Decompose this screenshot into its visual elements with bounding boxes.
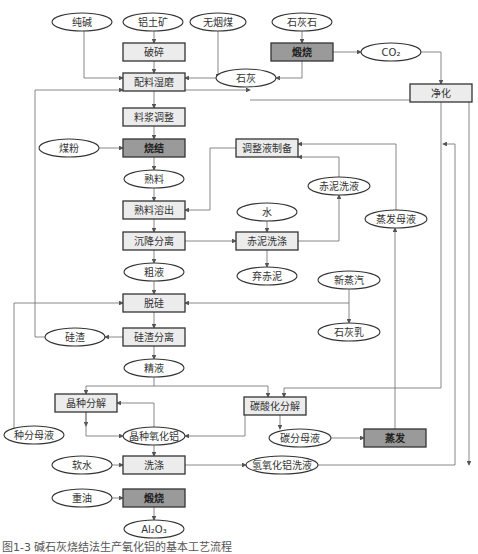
node-label: 煅烧: [292, 46, 312, 58]
process-step-chinixidi: 赤泥洗涤: [236, 232, 298, 250]
material-tanfenmuye: 碳分母液: [269, 429, 331, 447]
process-step-duanshao2: 煅烧: [123, 489, 185, 507]
material-qichini: 弃赤泥: [237, 267, 297, 285]
material-zhongyou: 重油: [52, 489, 112, 507]
node-label: 重油: [72, 492, 92, 504]
node-label: 硅渣: [65, 331, 85, 343]
node-label: 熟料: [144, 173, 164, 185]
process-step-jingzhongfenjie: 晶种分解: [55, 394, 117, 412]
node-label: 调整液制备: [242, 142, 292, 154]
node-label: 碳酸化分解: [250, 400, 300, 412]
flow-arrow: [86, 412, 123, 436]
node-label: 石灰: [236, 72, 256, 84]
node-label: 碳分母液: [280, 432, 320, 444]
material-zhongfenmuye: 种分母液: [4, 426, 64, 444]
process-step-xidi: 洗涤: [123, 456, 185, 474]
flow-arrow: [421, 52, 441, 84]
material-xinzhengqi: 新蒸汽: [318, 271, 380, 289]
process-step-tuogui: 脱硅: [123, 294, 185, 312]
node-label: 破碎: [144, 46, 164, 58]
node-label: 种分母液: [14, 429, 54, 441]
process-step-zhengfa: 蒸发: [364, 429, 426, 447]
process-step-tansuanhua: 碳酸化分解: [244, 397, 306, 415]
node-label: 脱硅: [144, 297, 164, 309]
flow-arrow: [298, 195, 339, 241]
flow-arrow: [284, 102, 441, 397]
node-label: 氢氧化铝洗液: [252, 459, 312, 471]
process-step-liaojiang: 料浆调整: [123, 108, 185, 126]
node-label: 纯碱: [72, 16, 92, 28]
node-label: 水: [262, 207, 272, 218]
node-label: 料浆调整: [134, 111, 174, 123]
node-label: 净化: [431, 87, 451, 99]
material-shihuishi: 石灰石: [272, 13, 332, 31]
node-label: 蒸发: [385, 432, 406, 444]
process-step-shaojie: 烧结: [123, 139, 185, 157]
flow-arrow: [185, 148, 236, 210]
flow-arrow: [86, 377, 154, 394]
node-label: 粗液: [144, 266, 164, 278]
figure-caption: 图1-3 碱石灰烧结法生产氧化铝的基本工艺流程: [2, 538, 232, 554]
node-label: 无烟煤: [203, 16, 233, 28]
node-label: 洗涤: [144, 459, 164, 471]
node-label: 赤泥洗涤: [247, 235, 287, 247]
material-shihui: 石灰: [216, 69, 276, 87]
node-label: 烧结: [144, 142, 164, 154]
node-label: 弃赤泥: [252, 270, 282, 282]
material-shuliao: 熟料: [124, 170, 184, 188]
material-cuye: 粗液: [124, 263, 184, 281]
node-label: 软水: [72, 459, 92, 471]
process-step-guizhafenli: 硅渣分离: [123, 328, 185, 346]
flow-arrow: [14, 303, 123, 435]
process-step-chenjiang: 沉降分离: [123, 232, 185, 250]
material-meifen: 煤粉: [39, 139, 99, 157]
material-lvtukuang: 铝土矿: [123, 13, 183, 31]
node-label: 精液: [144, 362, 164, 374]
node-label: 铝土矿: [138, 16, 168, 28]
node-label: 硅渣分离: [134, 331, 174, 343]
material-guizha: 硅渣: [45, 328, 105, 346]
node-label: 配料湿磨: [134, 76, 174, 88]
process-step-jinghua: 净化: [410, 84, 472, 102]
flow-arrow: [35, 90, 123, 337]
node-label: 沉降分离: [134, 235, 174, 247]
material-jingzhongyanghualv: 晶种氧化铝: [123, 427, 185, 445]
flow-arrow: [117, 403, 154, 427]
node-label: 新蒸汽: [334, 274, 364, 286]
node-label: 赤泥洗液: [319, 180, 359, 192]
node-label: 晶种分解: [66, 397, 106, 409]
node-label: Al₂O₃: [141, 524, 167, 535]
node-label: 煤粉: [59, 142, 79, 154]
process-step-tiaozhengye: 调整液制备: [236, 139, 298, 157]
node-label: 煅烧: [144, 492, 164, 504]
material-chunjian: 纯碱: [52, 13, 112, 31]
flow-arrow: [154, 386, 268, 397]
material-chinixiye: 赤泥洗液: [308, 177, 370, 195]
material-al2o3: Al₂O₃: [124, 520, 184, 538]
process-step-peiliao: 配料湿磨: [123, 73, 185, 91]
process-step-posui: 破碎: [123, 43, 185, 61]
flow-arrow: [84, 31, 123, 78]
material-co2: CO₂: [361, 43, 421, 61]
material-shihuiru: 石灰乳: [318, 323, 380, 341]
material-wuyanmei: 无烟煤: [190, 13, 246, 31]
node-label: 蒸发母液: [376, 213, 416, 225]
material-jingye: 精液: [124, 359, 184, 377]
material-zhengfamuye: 蒸发母液: [365, 210, 427, 228]
flow-arrow: [276, 61, 302, 78]
node-label: 晶种氧化铝: [129, 430, 179, 442]
flow-arrow: [298, 157, 339, 177]
node-label: 熟料溶出: [134, 204, 174, 216]
material-shui: 水: [237, 203, 297, 221]
process-nodes: 纯碱铝土矿无烟煤石灰石破碎煅烧CO₂配料湿磨石灰净化料浆调整煤粉烧结调整液制备熟…: [4, 13, 472, 538]
node-label: CO₂: [382, 47, 401, 58]
node-label: 石灰石: [287, 16, 317, 28]
material-qingyanghualvxiye: 氢氧化铝洗液: [246, 456, 318, 474]
node-label: 石灰乳: [334, 326, 364, 338]
flow-arrow: [185, 406, 245, 436]
material-ruanshui: 软水: [52, 456, 112, 474]
process-step-shuliaorongchu: 熟料溶出: [123, 201, 185, 219]
process-step-duanshao1: 煅烧: [271, 43, 333, 61]
